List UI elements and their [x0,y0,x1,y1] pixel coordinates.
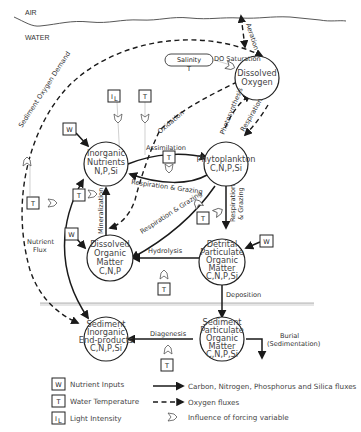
legend-forcing-influence: Influence of forcing variable [168,413,289,422]
light-intensity-box: I L [108,90,120,103]
svg-text:C,N,P,Si: C,N,P,Si [206,271,238,281]
oxidation-label: Oxidation [156,109,185,136]
hydrolysis-label: Hydrolysis [148,247,183,255]
nutrient-input-box-1: W [63,123,76,135]
node-dissolved-organic-matter: Dissolved Organic Matter C,N,P [87,235,133,281]
do-saturation-label: DO Saturation [214,55,261,63]
node-inorganic-nutrients: Inorganic Nutrients N,P,Si [84,142,128,186]
respiration-grazing-label-3a: Respiration [229,185,237,222]
svg-text:W: W [263,238,270,246]
svg-text:T: T [76,192,81,200]
nutrient-input-box-3: W [260,235,273,247]
svg-text:T: T [142,93,147,101]
svg-text:C,N,P,Si: C,N,P,Si [206,349,238,359]
legend-cnps-fluxes: Carbon, Nitrogen, Phosphorus and Silica … [153,382,357,391]
svg-text:Water Temperature: Water Temperature [70,397,140,406]
svg-text:T: T [186,65,191,73]
burial-label-a: Burial [280,332,299,340]
svg-text:N,P,Si: N,P,Si [94,166,118,176]
svg-text:T: T [164,362,169,370]
legend-oxygen-fluxes: Oxygen fluxes [153,398,240,407]
burial-label-b: (Sedimentation) [267,340,320,348]
temperature-box-left: T [27,197,39,209]
legend-nutrient-inputs: W Nutrient Inputs [52,378,124,390]
svg-text:L: L [58,417,62,425]
aeration-label: Aeration [244,22,260,51]
svg-text:I: I [111,93,113,101]
nutrient-flux-label-a: Nutrient [27,238,54,246]
svg-text:W: W [55,381,62,389]
svg-text:C,N,P,Si: C,N,P,Si [90,343,122,353]
node-phytoplankton: Phytoplankton C,N,P,Si [196,142,255,186]
mineralization-label: Mineralization [97,188,105,234]
deposition-label: Deposition [226,291,261,299]
node-detrital-particulate-organic-matter: Detrital Particulate Organic Matter C,N,… [199,239,245,285]
svg-text:T: T [166,154,171,162]
salinity-box: Salinity T [165,54,213,73]
svg-text:Salinity: Salinity [177,56,201,64]
respiration-grazing-label-3b: & Grazing [237,187,245,220]
legend-light-intensity: I L Light Intensity [52,412,122,425]
water-surface-line [14,17,346,26]
svg-text:Oxygen fluxes: Oxygen fluxes [188,398,240,407]
svg-text:Oxygen: Oxygen [241,77,273,87]
svg-text:L: L [114,95,118,103]
air-label: AIR [25,9,37,16]
svg-text:T: T [56,398,61,406]
burial-arrow [246,339,262,358]
svg-text:Light Intensity: Light Intensity [70,414,122,423]
nutrient-flux-label-b: Flux [33,246,47,254]
aeration-arrow [241,16,245,47]
temperature-box-phyto: T [163,151,175,163]
legend: W Nutrient Inputs T Water Temperature I … [52,378,357,425]
water-label: WATER [25,34,50,41]
temperature-box-diagenesis: T [161,359,173,371]
water-quality-diagram: AIR WATER Dissolved Oxygen [0,0,361,432]
svg-text:T: T [161,286,166,294]
svg-text:Carbon, Nitrogen, Phosphorus a: Carbon, Nitrogen, Phosphorus and Silica … [188,382,357,391]
svg-text:W: W [68,231,75,239]
temperature-box-top: T [139,90,151,102]
svg-text:W: W [66,126,73,134]
svg-text:C,N,P,Si: C,N,P,Si [210,163,242,173]
node-sediment-particulate-organic-matter: Sediment Particulate Organic Matter C,N,… [200,317,244,361]
svg-text:C,N,P: C,N,P [99,266,121,276]
diagenesis-label: Diagenesis [150,330,187,338]
legend-water-temperature: T Water Temperature [52,395,140,407]
nutrient-input-box-2: W [65,228,78,240]
svg-text:T: T [30,200,35,208]
svg-text:I: I [55,415,57,423]
svg-text:Nutrient Inputs: Nutrient Inputs [70,380,124,389]
temperature-box-hydrolysis: T [158,283,170,295]
svg-text:Influence of forcing variable: Influence of forcing variable [188,413,289,422]
node-sediment-inorganic-end-products: Sediment Inorganic End-products C,N,P,Si [79,317,133,361]
svg-text:T: T [200,215,205,223]
w-input-nutrients-arrow [76,133,88,146]
temperature-box-grazing: T [197,212,209,224]
w-input-detrital-arrow [246,242,260,248]
assimilation-label: Assimilation [146,144,186,152]
sediment-oxygen-demand-label: Sediment Oxygen Demand [17,50,72,129]
temperature-box-mineralization: T [73,189,85,201]
